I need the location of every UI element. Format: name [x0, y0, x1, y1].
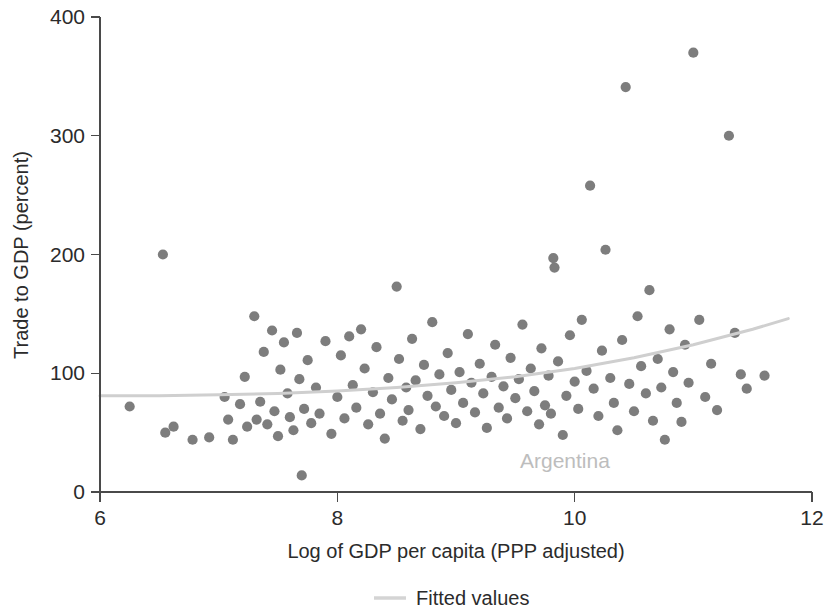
scatter-chart-figure: 0100200300400 681012 Trade to GDP (perce…	[0, 0, 835, 611]
y-tick-label: 0	[73, 480, 85, 503]
scatter-point	[536, 343, 546, 353]
y-tick-label: 400	[50, 5, 85, 28]
scatter-point	[683, 378, 693, 388]
scatter-point	[632, 311, 642, 321]
scatter-point	[360, 363, 370, 373]
scatter-point	[676, 417, 686, 427]
scatter-point	[454, 367, 464, 377]
y-axis: 0100200300400	[50, 5, 100, 503]
x-tick-label: 10	[563, 506, 586, 529]
scatter-point	[621, 82, 631, 92]
scatter-point	[223, 414, 233, 424]
scatter-point	[242, 422, 252, 432]
scatter-point	[419, 360, 429, 370]
y-tick-group: 0100200300400	[50, 5, 100, 503]
scatter-point	[320, 336, 330, 346]
y-axis-title: Trade to GDP (percent)	[10, 151, 32, 359]
scatter-point	[593, 411, 603, 421]
scatter-point	[443, 348, 453, 358]
scatter-point	[534, 419, 544, 429]
scatter-point	[204, 432, 214, 442]
scatter-point	[458, 398, 468, 408]
scatter-point	[653, 354, 663, 364]
scatter-point	[597, 346, 607, 356]
scatter-point	[407, 334, 417, 344]
scatter-point	[605, 373, 615, 383]
scatter-point	[540, 400, 550, 410]
scatter-point	[259, 347, 269, 357]
scatter-point	[656, 382, 666, 392]
scatter-point	[187, 435, 197, 445]
scatter-point	[712, 405, 722, 415]
scatter-point	[422, 391, 432, 401]
scatter-point	[387, 394, 397, 404]
scatter-point	[332, 392, 342, 402]
scatter-point	[262, 419, 272, 429]
scatter-point	[431, 401, 441, 411]
scatter-point	[478, 388, 488, 398]
scatter-point	[498, 381, 508, 391]
scatter-point	[517, 319, 527, 329]
scatter-point	[446, 385, 456, 395]
scatter-point	[665, 324, 675, 334]
scatter-point	[475, 359, 485, 369]
scatter-point	[356, 324, 366, 334]
scatter-point	[394, 354, 404, 364]
x-tick-label: 12	[800, 506, 823, 529]
scatter-point	[363, 419, 373, 429]
scatter-point	[648, 416, 658, 426]
scatter-point	[577, 315, 587, 325]
y-tick-label: 100	[50, 361, 85, 384]
scatter-point	[548, 253, 558, 263]
scatter-point	[490, 340, 500, 350]
scatter-point	[470, 407, 480, 417]
scatter-point	[351, 403, 361, 413]
scatter-point	[546, 409, 556, 419]
scatter-point	[600, 245, 610, 255]
scatter-point	[522, 406, 532, 416]
scatter-point	[561, 391, 571, 401]
scatter-point	[694, 315, 704, 325]
scatter-point	[383, 373, 393, 383]
scatter-point	[573, 404, 583, 414]
scatter-point	[736, 369, 746, 379]
scatter-point	[494, 403, 504, 413]
legend-label-fitted-values: Fitted values	[416, 587, 529, 609]
scatter-point	[269, 406, 279, 416]
scatter-point	[168, 422, 178, 432]
scatter-point	[398, 416, 408, 426]
scatter-point	[549, 262, 559, 272]
scatter-point	[235, 399, 245, 409]
scatter-point	[439, 411, 449, 421]
scatter-point	[529, 386, 539, 396]
scatter-point	[617, 335, 627, 345]
scatter-point	[724, 131, 734, 141]
scatter-point	[336, 350, 346, 360]
y-tick-label: 300	[50, 124, 85, 147]
scatter-point	[629, 406, 639, 416]
scatter-point	[306, 418, 316, 428]
y-tick-label: 200	[50, 243, 85, 266]
scatter-point	[565, 330, 575, 340]
scatter-point	[297, 470, 307, 480]
scatter-point	[570, 376, 580, 386]
x-tick-label: 8	[331, 506, 343, 529]
scatter-point	[392, 281, 402, 291]
scatter-point	[273, 431, 283, 441]
scatter-point	[644, 285, 654, 295]
scatter-point	[463, 329, 473, 339]
scatter-point	[339, 413, 349, 423]
scatter-point	[371, 342, 381, 352]
scatter-point	[636, 361, 646, 371]
scatter-point	[668, 367, 678, 377]
scatter-point	[700, 392, 710, 402]
scatter-point	[303, 355, 313, 365]
scatter-point	[344, 331, 354, 341]
scatter-point	[510, 393, 520, 403]
scatter-point	[505, 353, 515, 363]
scatter-point	[285, 412, 295, 422]
scatter-point	[526, 363, 536, 373]
scatter-point-group	[125, 48, 770, 481]
scatter-point	[672, 398, 682, 408]
scatter-point	[288, 425, 298, 435]
